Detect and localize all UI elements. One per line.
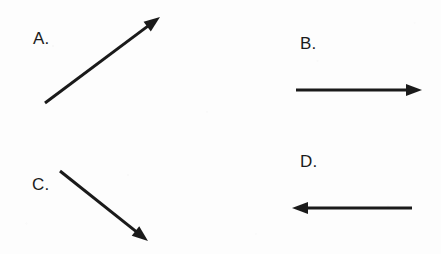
- arrow-label-b: B.: [300, 35, 316, 52]
- figure-canvas: A. B. C. D.: [0, 0, 441, 254]
- arrow-layer: [0, 0, 441, 254]
- arrow-label-a: A.: [33, 30, 49, 47]
- arrow-d: [292, 202, 412, 214]
- arrow-c: [60, 171, 148, 241]
- arrow-b-head: [406, 84, 422, 96]
- arrow-a-shaft: [45, 24, 151, 103]
- arrow-c-shaft: [60, 171, 139, 234]
- arrow-d-head: [292, 202, 308, 214]
- arrow-label-d: D.: [300, 153, 317, 170]
- arrow-a: [45, 17, 160, 103]
- arrow-b: [296, 84, 422, 96]
- arrow-label-c: C.: [32, 176, 49, 193]
